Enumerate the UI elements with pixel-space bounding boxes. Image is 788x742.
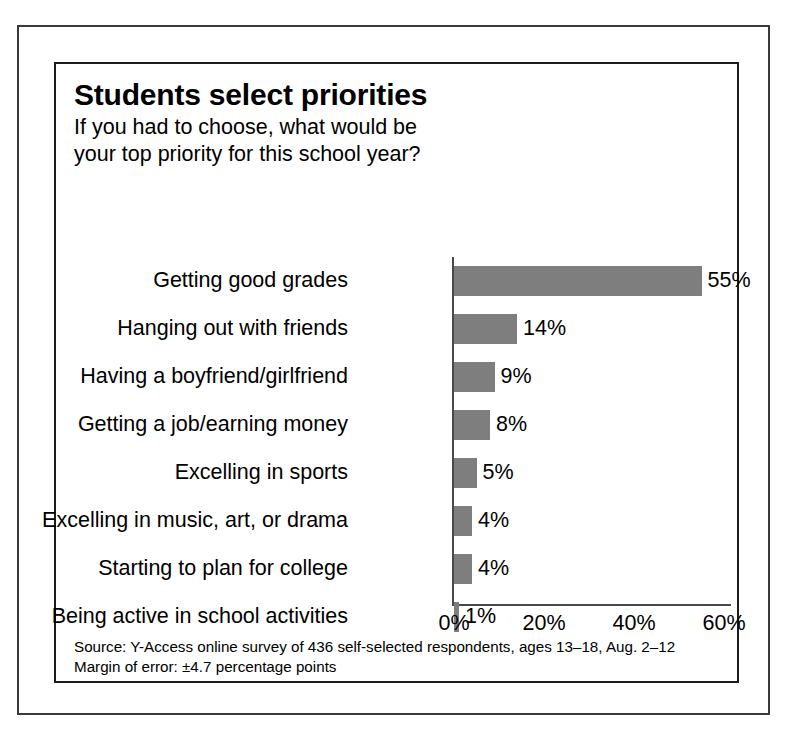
bar-value-label: 5%	[483, 457, 514, 487]
source-note: Source: Y-Access online survey of 436 se…	[74, 637, 724, 657]
bar-category-label: Having a boyfriend/girlfriend	[80, 361, 348, 391]
bar-value-label: 55%	[708, 265, 751, 295]
bar-row: Getting a job/earning money8%	[56, 401, 737, 449]
bar-row: Excelling in sports5%	[56, 449, 737, 497]
bar-category-label: Getting good grades	[153, 265, 348, 295]
footnotes: Source: Y-Access online survey of 436 se…	[74, 637, 724, 677]
x-tick-label: 40%	[612, 610, 655, 636]
bar-chart-plot-area: Getting good grades55%Hanging out with f…	[56, 224, 737, 649]
bar-value-label: 1%	[465, 601, 496, 631]
margin-of-error-note: Margin of error: ±4.7 percentage points	[74, 657, 724, 677]
chart-header: Students select priorities If you had to…	[74, 78, 714, 168]
bar-value-label: 9%	[501, 361, 532, 391]
bar-category-label: Excelling in sports	[175, 457, 348, 487]
bar	[454, 554, 472, 584]
bar-row: Starting to plan for college4%	[56, 545, 737, 593]
bar	[454, 266, 702, 296]
bar	[454, 410, 490, 440]
bar-category-label: Starting to plan for college	[98, 553, 348, 583]
bar-row: Having a boyfriend/girlfriend9%	[56, 353, 737, 401]
bar-value-label: 4%	[478, 505, 509, 535]
bar-row: Hanging out with friends14%	[56, 305, 737, 353]
bar	[454, 362, 495, 392]
bar-value-label: 8%	[496, 409, 527, 439]
bar-category-label: Excelling in music, art, or drama	[42, 505, 348, 535]
bar-row: Getting good grades55%	[56, 257, 737, 305]
page-title: Students select priorities	[74, 78, 714, 112]
bar-category-label: Being active in school activities	[52, 601, 348, 631]
outer-frame: Students select priorities If you had to…	[17, 25, 770, 715]
bar	[454, 314, 517, 344]
bar-value-label: 4%	[478, 553, 509, 583]
x-tick-label: 60%	[702, 610, 745, 636]
bar	[454, 506, 472, 536]
inner-frame: Students select priorities If you had to…	[54, 62, 739, 683]
bar-value-label: 14%	[523, 313, 566, 343]
chart-subtitle-line-1: If you had to choose, what would be	[74, 114, 714, 141]
bar-row: Excelling in music, art, or drama4%	[56, 497, 737, 545]
x-tick-label: 20%	[522, 610, 565, 636]
bar-category-label: Hanging out with friends	[117, 313, 348, 343]
bar	[454, 458, 477, 488]
bar-category-label: Getting a job/earning money	[78, 409, 348, 439]
x-tick-label: 0%	[438, 610, 469, 636]
chart-subtitle-line-2: your top priority for this school year?	[74, 141, 714, 168]
